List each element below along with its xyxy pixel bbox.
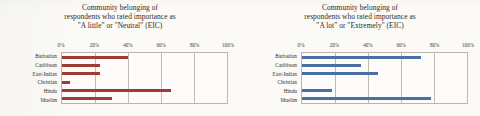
bar-row: [62, 61, 227, 69]
bar-row: [62, 95, 227, 103]
x-tick-label-left-1: 20%: [90, 42, 99, 48]
category-label: Caribbean: [35, 62, 57, 68]
chart-title-left-line3: "A little" or "Neutral" (EIC): [0, 21, 240, 30]
category-label-row: Caribbean: [241, 61, 299, 70]
bar-row: [62, 70, 227, 78]
figure-container: Community belonging of respondents who r…: [0, 0, 480, 116]
category-label-row: East-Indian: [241, 69, 299, 78]
chart-title-left: Community belonging of respondents who r…: [0, 0, 240, 31]
gridline-left-4: [194, 53, 195, 103]
bar-row: [62, 53, 227, 61]
x-tick-label-right-0: 0%: [298, 42, 305, 48]
category-label-row: Muslim: [241, 95, 299, 104]
category-labels-left: BarbadianCaribbeanEast-IndianChristianHi…: [1, 52, 59, 104]
category-label: Caribbean: [275, 62, 297, 68]
bar-christian: [62, 81, 70, 84]
category-label-row: Hindu: [241, 87, 299, 96]
bar-east-indian: [62, 72, 100, 75]
category-label-row: Muslim: [1, 95, 59, 104]
x-tick-label-right-1: 20%: [330, 42, 339, 48]
bar-barbadian: [302, 56, 421, 59]
x-tick-label-left-3: 60%: [157, 42, 166, 48]
category-label-row: Christian: [1, 78, 59, 87]
x-tick-label-right-3: 60%: [397, 42, 406, 48]
x-tick-label-left-2: 40%: [123, 42, 132, 48]
bar-rows-right: [302, 53, 467, 103]
x-tick-label-left-4: 80%: [190, 42, 199, 48]
x-axis-right: 0%20%40%60%80%100%: [301, 41, 468, 52]
category-label: East-Indian: [33, 71, 57, 77]
plot-area-left: [61, 52, 228, 104]
gridline-right-4: [434, 53, 435, 103]
chart-title-right-line2: respondents who rated importance as: [240, 12, 480, 21]
x-tick-label-right-4: 80%: [430, 42, 439, 48]
bar-row: [302, 86, 467, 94]
gridline-left-3: [161, 53, 162, 103]
category-label: East-Indian: [273, 71, 297, 77]
x-tick-label-left-5: 100%: [222, 42, 234, 48]
category-label-row: Caribbean: [1, 61, 59, 70]
x-tick-label-left-0: 0%: [58, 42, 65, 48]
gridline-right-3: [401, 53, 402, 103]
x-tick-label-right-5: 100%: [462, 42, 474, 48]
category-label-row: Christian: [241, 78, 299, 87]
category-label-row: Barbadian: [241, 52, 299, 61]
bar-row: [62, 78, 227, 86]
bar-row: [62, 86, 227, 94]
bar-row: [302, 78, 467, 86]
chart-title-right: Community belonging of respondents who r…: [240, 0, 480, 31]
category-label-row: Barbadian: [1, 52, 59, 61]
bar-caribbean: [62, 64, 100, 67]
chart-title-right-line3: "A lot" or "Extremely" (EIC): [240, 21, 480, 30]
bar-row: [302, 53, 467, 61]
category-label: Hindu: [284, 88, 297, 94]
bar-hindu: [302, 89, 332, 92]
bar-caribbean: [302, 64, 361, 67]
x-axis-left: 0%20%40%60%80%100%: [61, 41, 228, 52]
plot-area-right: [301, 52, 468, 104]
bar-hindu: [62, 89, 171, 92]
gridline-left-2: [128, 53, 129, 103]
category-label-row: Hindu: [1, 87, 59, 96]
bar-rows-left: [62, 53, 227, 103]
bar-barbadian: [62, 56, 128, 59]
category-label: Barbadian: [275, 53, 297, 59]
category-label-row: East-Indian: [1, 69, 59, 78]
gridline-left-5: [227, 53, 228, 103]
category-labels-right: BarbadianCaribbeanEast-IndianChristianHi…: [241, 52, 299, 104]
chart-title-left-line1: Community belonging of: [0, 3, 240, 12]
chart-title-right-line1: Community belonging of: [240, 3, 480, 12]
gridline-right-2: [368, 53, 369, 103]
gridline-right-1: [335, 53, 336, 103]
bar-muslim: [302, 97, 431, 100]
bar-muslim: [62, 97, 112, 100]
category-label: Barbadian: [35, 53, 57, 59]
gridline-left-1: [95, 53, 96, 103]
category-label: Muslim: [281, 97, 297, 103]
chart-title-left-line2: respondents who rated importance as: [0, 12, 240, 21]
bar-row: [302, 70, 467, 78]
x-tick-label-right-2: 40%: [363, 42, 372, 48]
bar-row: [302, 95, 467, 103]
gridline-right-5: [467, 53, 468, 103]
bar-east-indian: [302, 72, 378, 75]
charts-plot-layer: 0%20%40%60%80%100% BarbadianCaribbeanEas…: [0, 41, 240, 113]
category-label: Muslim: [41, 97, 57, 103]
category-label: Hindu: [44, 88, 57, 94]
bar-row: [302, 61, 467, 69]
category-label: Christian: [38, 79, 57, 85]
category-label: Christian: [278, 79, 297, 85]
